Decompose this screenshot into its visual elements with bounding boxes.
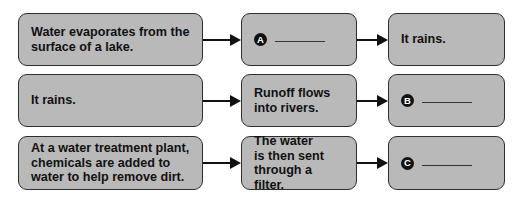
row1-step3-box: It rains.: [388, 13, 505, 66]
row3-step3-box: C: [388, 136, 505, 190]
blank-line-c: [422, 165, 472, 166]
blank-line-a: [275, 41, 325, 42]
label-c-badge: C: [401, 157, 414, 170]
row2-arrow-2: [357, 100, 386, 102]
row3-step2-text: The water is then sent through a filter.: [254, 134, 344, 192]
row2-step2-text: Runoff flows into rivers.: [254, 86, 330, 115]
row2-step3-box: B: [388, 74, 505, 127]
blank-line-b: [422, 102, 472, 103]
row2-step1-text: It rains.: [31, 93, 76, 108]
row1-arrow-1: [203, 39, 239, 41]
row3-arrow-1: [203, 162, 239, 164]
row1-step1-box: Water evaporates from the surface of a l…: [18, 13, 203, 66]
row1-step3-text: It rains.: [401, 32, 446, 47]
row3-step2-box: The water is then sent through a filter.: [241, 136, 357, 190]
row2-step2-box: Runoff flows into rivers.: [241, 74, 357, 127]
row3-arrow-2: [357, 162, 386, 164]
answer-blank-c: C: [401, 157, 472, 170]
row1-step2-box: A: [241, 13, 357, 66]
row1-step1-text: Water evaporates from the surface of a l…: [31, 25, 189, 54]
answer-blank-b: B: [401, 94, 472, 107]
row3-step1-box: At a water treatment plant, chemicals ar…: [18, 136, 203, 190]
row3-step1-text: At a water treatment plant, chemicals ar…: [31, 141, 189, 185]
label-a-badge: A: [254, 33, 267, 46]
row2-step1-box: It rains.: [18, 74, 203, 127]
row1-arrow-2: [357, 39, 386, 41]
answer-blank-a: A: [254, 33, 325, 46]
row2-arrow-1: [203, 100, 239, 102]
label-b-badge: B: [401, 94, 414, 107]
